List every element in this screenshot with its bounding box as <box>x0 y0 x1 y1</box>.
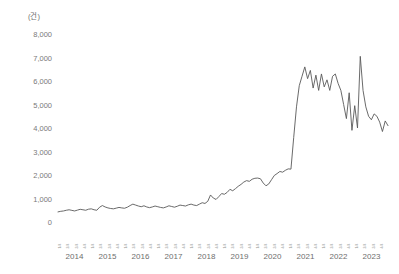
x-axis-quarter-tick-label: 1/4 <box>125 243 128 248</box>
y-axis-tick-label: 4,000 <box>8 124 52 133</box>
y-axis-tick-label: 7,000 <box>8 53 52 62</box>
x-axis-quarter-tick-label: 4/4 <box>83 243 86 248</box>
x-axis-quarter-tick-label: 2/4 <box>199 243 202 248</box>
x-axis-quarter-tick-label: 3/4 <box>306 243 309 248</box>
x-axis-quarter-tick-label: 1/4 <box>356 243 359 248</box>
y-axis-tick-label: 6,000 <box>8 77 52 86</box>
x-axis-year-label: 2016 <box>132 252 150 261</box>
x-axis-quarter-tick-label: 3/4 <box>108 243 111 248</box>
x-axis-quarter-tick-label: 3/4 <box>174 243 177 248</box>
x-axis-quarter-tick-label: 4/4 <box>314 243 317 248</box>
y-axis-tick-label: 0 <box>8 218 52 227</box>
x-axis-year-label: 2020 <box>264 252 282 261</box>
x-axis-quarter-tick-label: 1/4 <box>158 243 161 248</box>
x-axis-quarter-tick-label: 4/4 <box>149 243 152 248</box>
x-axis-quarter-tick-label: 4/4 <box>281 243 284 248</box>
series-path <box>58 56 388 212</box>
x-axis-year-label: 2019 <box>231 252 249 261</box>
x-axis-quarter-tick-label: 4/4 <box>347 243 350 248</box>
x-axis-quarter-ticks: 1/42/43/44/41/42/43/44/41/42/43/44/41/42… <box>58 224 388 248</box>
x-axis-quarter-tick-label: 1/4 <box>92 243 95 248</box>
x-axis-quarter-tick-label: 4/4 <box>248 243 251 248</box>
y-axis-tick-label: 1,000 <box>8 194 52 203</box>
x-axis-quarter-tick-label: 3/4 <box>273 243 276 248</box>
x-axis-year-label: 2015 <box>99 252 117 261</box>
y-axis-tick-labels: 8,0007,0006,0005,0004,0003,0002,0001,000… <box>4 0 52 274</box>
x-axis-quarter-tick-label: 4/4 <box>215 243 218 248</box>
x-axis-quarter-tick-label: 3/4 <box>240 243 243 248</box>
y-axis-tick-label: 8,000 <box>8 30 52 39</box>
x-axis-quarter-tick-label: 1/4 <box>224 243 227 248</box>
x-axis-quarter-tick-label: 2/4 <box>265 243 268 248</box>
x-axis-quarter-tick-label: 1/4 <box>59 243 62 248</box>
x-axis-quarter-tick-label: 2/4 <box>67 243 70 248</box>
x-axis-quarter-tick-label: 2/4 <box>166 243 169 248</box>
x-axis-quarter-tick-label: 1/4 <box>290 243 293 248</box>
x-axis-quarter-tick-label: 3/4 <box>75 243 78 248</box>
x-axis-quarter-tick-label: 1/4 <box>191 243 194 248</box>
y-axis-tick-label: 3,000 <box>8 147 52 156</box>
x-axis-year-label: 2022 <box>330 252 348 261</box>
x-axis-quarter-tick-label: 2/4 <box>133 243 136 248</box>
x-axis-quarter-tick-label: 3/4 <box>372 243 375 248</box>
x-axis-quarter-tick-label: 2/4 <box>100 243 103 248</box>
y-axis-tick-label: 5,000 <box>8 100 52 109</box>
x-axis-year-label: 2014 <box>66 252 84 261</box>
x-axis-quarter-tick-label: 4/4 <box>380 243 383 248</box>
y-axis-tick-label: 2,000 <box>8 171 52 180</box>
data-series-line <box>58 34 388 222</box>
x-axis-year-label: 2017 <box>165 252 183 261</box>
x-axis-year-labels: 2014201520162017201820192020202120222023 <box>58 252 388 270</box>
x-axis-quarter-tick-label: 3/4 <box>141 243 144 248</box>
x-axis-year-label: 2021 <box>297 252 315 261</box>
x-axis-year-label: 2023 <box>363 252 381 261</box>
x-axis-quarter-tick-label: 4/4 <box>116 243 119 248</box>
x-axis-quarter-tick-label: 1/4 <box>323 243 326 248</box>
line-chart: (건) 8,0007,0006,0005,0004,0003,0002,0001… <box>0 0 399 274</box>
x-axis-quarter-tick-label: 1/4 <box>257 243 260 248</box>
x-axis-quarter-tick-label: 2/4 <box>364 243 367 248</box>
x-axis-quarter-tick-label: 2/4 <box>331 243 334 248</box>
x-axis-quarter-tick-label: 2/4 <box>298 243 301 248</box>
x-axis-quarter-tick-label: 3/4 <box>207 243 210 248</box>
x-axis-quarter-tick-label: 3/4 <box>339 243 342 248</box>
plot-area <box>58 34 388 222</box>
x-axis-year-label: 2018 <box>198 252 216 261</box>
x-axis-quarter-tick-label: 2/4 <box>232 243 235 248</box>
x-axis-quarter-tick-label: 4/4 <box>182 243 185 248</box>
